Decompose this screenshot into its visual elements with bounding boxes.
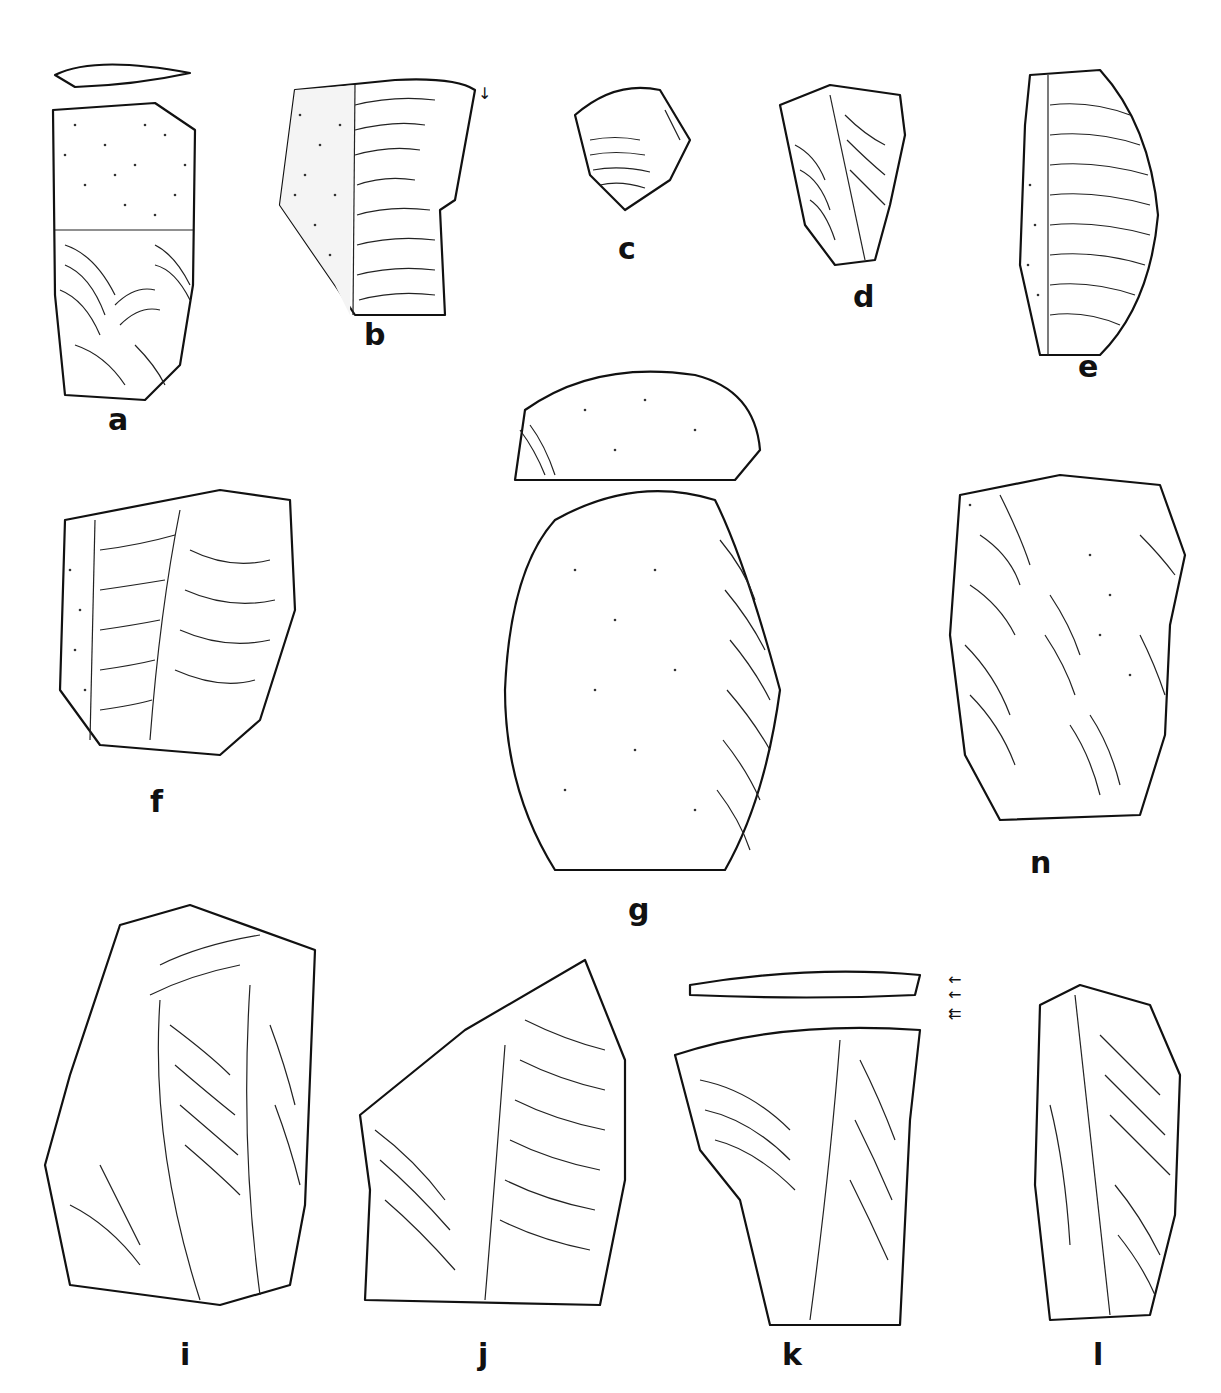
artifact-c bbox=[565, 80, 695, 220]
label-c: c bbox=[618, 234, 636, 264]
label-i: i bbox=[180, 1340, 190, 1370]
label-d: d bbox=[853, 282, 874, 312]
artifact-l-drawing bbox=[1030, 985, 1185, 1325]
arrow-k-2: ← bbox=[948, 985, 961, 1004]
artifact-f bbox=[40, 490, 300, 770]
label-f: f bbox=[150, 787, 163, 817]
artifact-f-drawing bbox=[40, 490, 300, 770]
artifact-k bbox=[660, 970, 960, 1325]
artifact-d bbox=[775, 85, 915, 270]
artifact-b-drawing bbox=[275, 75, 495, 345]
artifact-e bbox=[1000, 65, 1160, 365]
artifact-g bbox=[495, 370, 795, 880]
artifact-n-drawing bbox=[940, 475, 1190, 830]
artifact-b bbox=[275, 75, 495, 345]
label-j: j bbox=[478, 1340, 488, 1370]
artifact-n bbox=[940, 475, 1190, 830]
artifact-i bbox=[40, 905, 320, 1325]
artifact-l bbox=[1030, 985, 1185, 1325]
artifact-g-drawing bbox=[495, 370, 795, 880]
label-n: n bbox=[1030, 848, 1051, 878]
label-k: k bbox=[782, 1340, 802, 1370]
artifact-j-drawing bbox=[355, 960, 635, 1315]
artifact-k-drawing bbox=[660, 970, 960, 1325]
label-e: e bbox=[1078, 352, 1098, 382]
label-g: g bbox=[628, 895, 649, 925]
arrow-b: ↓ bbox=[478, 84, 491, 103]
label-a: a bbox=[108, 405, 128, 435]
artifact-i-drawing bbox=[40, 905, 320, 1325]
artifact-e-drawing bbox=[1000, 65, 1160, 365]
artifact-a-drawing bbox=[45, 55, 195, 425]
artifact-d-drawing bbox=[775, 85, 915, 270]
artifact-a bbox=[45, 55, 195, 425]
arrow-k-3: ⇇ bbox=[948, 1004, 961, 1023]
label-l: l bbox=[1093, 1340, 1103, 1370]
artifact-j bbox=[355, 960, 635, 1315]
label-b: b bbox=[364, 320, 385, 350]
artifact-c-drawing bbox=[565, 80, 695, 220]
